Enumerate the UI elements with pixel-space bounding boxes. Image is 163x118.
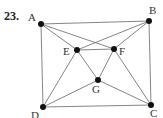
vertex-D xyxy=(40,104,46,110)
vertex-label-D: D xyxy=(31,109,39,118)
edge-BC xyxy=(149,21,151,105)
problem-number: 23. xyxy=(4,9,19,23)
edge-DC xyxy=(43,105,151,107)
edge-EF xyxy=(77,49,114,50)
vertex-B xyxy=(146,18,152,24)
vertex-F xyxy=(111,46,117,52)
graph-diagram: 23. ABCDEFG xyxy=(0,0,163,118)
vertex-label-C: C xyxy=(150,107,157,118)
vertex-label-G: G xyxy=(92,83,100,95)
edge-AE xyxy=(41,24,77,50)
edge-EG xyxy=(77,50,98,80)
graph-vertices xyxy=(38,18,154,110)
vertex-label-E: E xyxy=(63,45,70,57)
vertex-label-A: A xyxy=(28,11,36,23)
vertex-A xyxy=(38,21,44,27)
edge-AD xyxy=(41,24,43,107)
vertex-E xyxy=(74,47,80,53)
edge-BE xyxy=(77,21,149,50)
vertex-label-F: F xyxy=(119,45,125,57)
edge-AF xyxy=(41,24,114,49)
edge-FG xyxy=(98,49,114,80)
vertex-label-B: B xyxy=(149,4,156,16)
edge-AB xyxy=(41,21,149,24)
